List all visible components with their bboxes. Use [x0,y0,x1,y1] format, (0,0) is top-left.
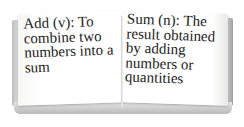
sum-definition: Sum (n): The result obtained by adding n… [125,11,219,87]
add-definition: Add (v): To combine two numbers into a s… [23,13,117,74]
book-spine [121,16,123,108]
